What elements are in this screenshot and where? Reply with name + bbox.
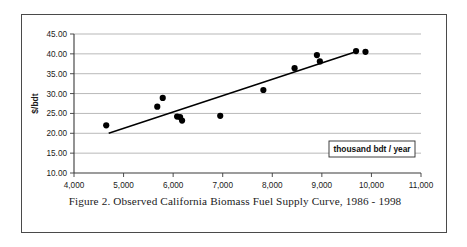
figure-caption: Figure 2. Observed California Biomass Fu… (22, 195, 448, 207)
trend-line (109, 51, 357, 133)
y-tick-label: 30.00 (47, 90, 68, 99)
x-tick-label: 8,000 (262, 181, 283, 190)
data-point (314, 52, 320, 58)
y-tick-label: 35.00 (47, 70, 68, 79)
data-point (154, 104, 160, 110)
data-point (260, 87, 266, 93)
x-tick-label: 9,000 (312, 181, 333, 190)
x-tick-label: 5,000 (113, 181, 134, 190)
data-point (362, 49, 368, 55)
data-point (217, 113, 223, 119)
y-tick-label: 45.00 (47, 30, 68, 39)
figure-frame: 10.0015.0020.0025.0030.0035.0040.0045.00… (21, 14, 447, 233)
y-tick-label: 20.00 (47, 129, 68, 138)
data-point (291, 65, 297, 71)
data-point (179, 117, 185, 123)
y-tick-label: 15.00 (47, 149, 68, 158)
x-tick-label: 10,000 (359, 181, 384, 190)
x-tick-label: 11,000 (409, 181, 434, 190)
x-tick-label: 6,000 (163, 181, 184, 190)
data-point (103, 122, 109, 128)
legend-label: thousand bdt / year (333, 144, 411, 154)
figure-container: 10.0015.0020.0025.0030.0035.0040.0045.00… (0, 0, 467, 247)
x-tick-label: 7,000 (212, 181, 233, 190)
y-tick-label: 10.00 (47, 169, 68, 178)
data-point (160, 95, 166, 101)
x-tick-label: 4,000 (64, 181, 85, 190)
y-axis-title: $/bdt (30, 93, 40, 113)
y-tick-label: 25.00 (47, 109, 68, 118)
y-tick-label: 40.00 (47, 50, 68, 59)
